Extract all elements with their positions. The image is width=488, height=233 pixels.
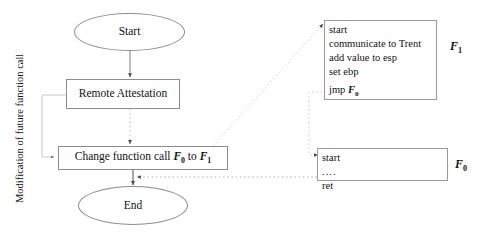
connector-change-to-f1-block	[213, 24, 323, 146]
code-line-f1-0: start	[329, 23, 433, 37]
code-line-f1-jmp: jmp F0	[329, 83, 433, 100]
node-end[interactable]: End	[78, 186, 188, 225]
change-symbol-from: F0	[173, 150, 185, 162]
code-line-f0-2: ret	[322, 179, 444, 193]
jmp-symbol: F0	[348, 84, 359, 95]
change-label-prefix: Change function call	[75, 150, 174, 162]
node-change-function-call[interactable]: Change function call F0 to F1	[58, 146, 228, 170]
code-block-f0[interactable]: start .... ret	[317, 148, 448, 181]
connector-f1-jmp-to-f0-block	[309, 92, 322, 155]
flowchart-figure: Modification of future function call Sta…	[0, 0, 488, 233]
code-block-f0-name: F0	[455, 157, 467, 173]
node-end-label: End	[124, 199, 143, 212]
jmp-prefix: jmp	[329, 84, 348, 95]
code-block-f1[interactable]: start communicate to Trent add value to …	[324, 20, 437, 100]
node-remote-attestation[interactable]: Remote Attestation	[66, 79, 180, 109]
node-start-label: Start	[119, 25, 141, 38]
change-symbol-to: F1	[200, 150, 212, 162]
change-label-middle: to	[185, 150, 200, 162]
code-line-f1-1: communicate to Trent	[329, 37, 433, 51]
code-line-f1-3: set ebp	[329, 65, 433, 79]
code-block-f1-name: F1	[450, 39, 462, 55]
node-change-function-call-label: Change function call F0 to F1	[75, 150, 212, 165]
node-start[interactable]: Start	[74, 13, 185, 51]
code-line-f1-2: add value to esp	[329, 51, 433, 65]
side-label: Modification of future function call	[14, 54, 25, 203]
code-line-f0-0: start	[322, 151, 444, 165]
node-remote-attestation-label: Remote Attestation	[79, 87, 167, 100]
code-line-f0-1: ....	[322, 165, 444, 179]
